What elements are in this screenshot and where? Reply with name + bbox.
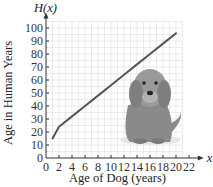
y-tick-label: 20: [31, 125, 43, 139]
x-axis-label: Age of Dog (years): [69, 171, 166, 185]
x-tick-label: 20: [170, 160, 182, 174]
y-tick-label: 100: [25, 21, 43, 35]
puppy-illustration: [120, 69, 181, 145]
x-tick-label: 2: [56, 160, 62, 174]
y-axis-symbol: H(x): [33, 1, 57, 15]
y-tick-label: 40: [31, 99, 43, 113]
x-tick-label: 22: [183, 160, 195, 174]
x-axis-arrow-icon: [198, 156, 204, 161]
y-tick-label: 30: [31, 112, 43, 126]
y-tick-label: 60: [31, 73, 43, 87]
x-axis-symbol: x: [206, 151, 213, 165]
x-tick-label: 0: [43, 160, 49, 174]
y-tick-label: 10: [31, 138, 43, 152]
y-axis-label: Age in Human Years: [1, 41, 15, 145]
chart: 0246810121416182022010203040506070809010…: [0, 0, 213, 187]
y-tick-label: 80: [31, 47, 43, 61]
y-tick-label: 50: [31, 86, 43, 100]
y-tick-label: 90: [31, 34, 43, 48]
y-tick-label: 0: [37, 151, 43, 165]
y-tick-label: 70: [31, 60, 43, 74]
